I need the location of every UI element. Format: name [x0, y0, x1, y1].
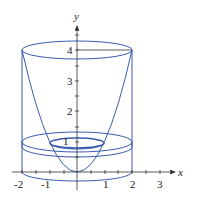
y-tick-label-4: 4 — [67, 44, 73, 56]
x-tick-label-3: 3 — [157, 178, 163, 190]
diagram-canvas: y x 4 3 2 1 -2 -1 1 2 3 — [0, 0, 197, 200]
axes — [12, 26, 175, 190]
y-axis-label: y — [73, 10, 79, 22]
x-tick-label-neg1: -1 — [41, 178, 50, 190]
x-axis-label: x — [177, 166, 183, 178]
x-tick-label-2: 2 — [130, 178, 136, 190]
y-tick-label-1: 1 — [63, 135, 69, 147]
y-tick-label-2: 2 — [67, 105, 73, 117]
x-tick-label-1: 1 — [103, 178, 109, 190]
y-tick-label-3: 3 — [67, 75, 73, 87]
x-tick-label-neg2: -2 — [14, 178, 23, 190]
